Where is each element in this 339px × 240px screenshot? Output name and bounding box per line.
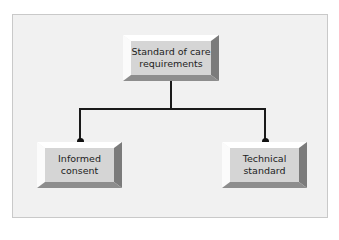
connector-stem [170,81,172,110]
bevel-shadow [37,182,122,188]
bevel-shadow [299,142,307,188]
connector-horizontal [79,108,266,110]
child-node-label: Technical standard [230,148,299,182]
child-node-technical-standard: Technical standard [222,142,307,188]
bevel-shadow [211,35,219,81]
bevel-shadow [114,142,122,188]
root-node-standard-of-care: Standard of care requirements [123,35,219,81]
bevel-highlight [222,142,230,188]
bevel-highlight [123,35,131,81]
root-node-label: Standard of care requirements [131,41,211,75]
child-node-informed-consent: Informed consent [37,142,122,188]
connector-drop-left [79,108,81,141]
bevel-highlight [37,142,45,188]
child-node-label: Informed consent [45,148,114,182]
bevel-shadow [222,182,307,188]
connector-drop-right [264,108,266,141]
